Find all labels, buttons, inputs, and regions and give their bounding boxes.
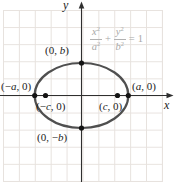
point-left-vertex	[32, 93, 37, 98]
point-left-focus	[43, 93, 48, 98]
label-text: )	[65, 44, 69, 56]
label-text: (−	[36, 100, 46, 112]
fraction-y2-b2: y2 b2	[114, 26, 126, 52]
y-axis-letter: y	[63, 0, 68, 12]
label-text: (0,	[45, 44, 60, 56]
label-bottom-covertex: (0, −b)	[37, 131, 67, 143]
label-text: )	[63, 131, 67, 143]
label-text: , 0)	[108, 100, 123, 112]
y-axis-arrow-icon	[79, 2, 85, 9]
x-axis-letter: x	[164, 98, 169, 112]
label-top-covertex: (0, b)	[45, 44, 69, 56]
point-bottom-covertex	[79, 125, 84, 130]
label-left-focus: (−c, 0)	[36, 100, 65, 112]
fraction-numerator: x2	[90, 26, 102, 40]
equation-rhs: 1	[138, 34, 143, 45]
point-top-covertex	[79, 60, 84, 65]
ellipse-equation: x2 a2 + y2 b2 = 1	[90, 26, 143, 52]
equation-exp: 2	[121, 39, 124, 46]
label-text: , 0)	[51, 100, 66, 112]
point-right-vertex	[126, 93, 131, 98]
equation-exp: 2	[121, 25, 124, 32]
ellipse-diagram: y x (0, b) (−a, 0) (−c, 0) (c, 0) (a, 0)…	[0, 0, 176, 182]
equals-sign: =	[129, 34, 135, 45]
label-text: , 0)	[16, 80, 31, 92]
equation-exp: 2	[97, 25, 100, 32]
label-right-focus: (c, 0)	[99, 100, 122, 112]
label-text: , 0)	[141, 80, 156, 92]
point-right-focus	[115, 93, 120, 98]
label-left-vertex: (−a, 0)	[1, 80, 31, 92]
equation-exp: 2	[97, 39, 100, 46]
label-text: (−	[1, 80, 11, 92]
label-right-vertex: (a, 0)	[132, 80, 156, 92]
label-text: (0, −	[37, 131, 58, 143]
y-axis-label: y	[63, 0, 68, 11]
fraction-denominator: b2	[116, 40, 125, 52]
x-axis-label: x	[164, 99, 169, 111]
fraction-denominator: a2	[92, 40, 101, 52]
fraction-x2-a2: x2 a2	[90, 26, 102, 52]
fraction-numerator: y2	[114, 26, 126, 40]
plus-sign: +	[105, 34, 111, 45]
